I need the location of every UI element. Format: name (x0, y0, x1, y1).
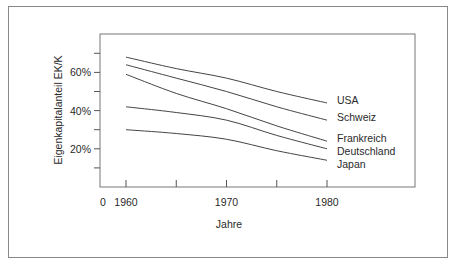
x-axis-label: Jahre (216, 218, 242, 230)
series-label-deutschland: Deutschland (337, 145, 396, 157)
series-line-frankreich (126, 74, 327, 141)
y-tick-label: 60% (70, 66, 91, 78)
x-origin-label: 0 (100, 196, 106, 208)
series-line-japan (126, 130, 327, 161)
series-label-schweiz: Schweiz (337, 111, 376, 123)
x-tick-label: 1960 (114, 196, 138, 208)
x-tick-label: 1970 (215, 196, 239, 208)
line-chart: 20%40%60% 196019701980 USASchweizFrankre… (0, 0, 456, 264)
series-line-schweiz (126, 65, 327, 120)
x-tick-label: 1980 (315, 196, 339, 208)
y-tick-label: 40% (70, 105, 91, 117)
series-label-japan: Japan (337, 158, 366, 170)
series-label-usa: USA (337, 94, 359, 106)
series-label-frankreich: Frankreich (337, 132, 387, 144)
series-line-deutschland (126, 107, 327, 149)
series-line-usa (126, 57, 327, 103)
y-axis-label: Eigenkapitalanteil EK/K (52, 55, 64, 164)
y-tick-label: 20% (70, 143, 91, 155)
